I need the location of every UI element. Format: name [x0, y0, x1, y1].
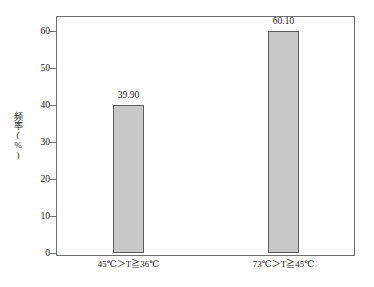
bar-chart: 频率(%) 0 10 20 30 40 50 60 39.90 60.10 45… [0, 0, 374, 287]
bar-value-1: 60.10 [258, 17, 309, 27]
x-axis-label-0: 45℃＞T≧36℃ [68, 260, 189, 269]
x-axis-label-1: 73℃＞T≧45℃ [223, 260, 344, 269]
y-tick-label-20: 20 [24, 175, 50, 185]
y-tick-label-0: 0 [24, 249, 50, 259]
y-axis-title: 频率(%) [8, 112, 22, 160]
y-tick-label-30: 30 [24, 138, 50, 148]
y-tick-label-40: 40 [24, 101, 50, 111]
bar-value-0: 39.90 [103, 91, 154, 101]
y-tick-label-10: 10 [24, 212, 50, 222]
plot-area [56, 16, 355, 256]
y-tick-label-60: 60 [24, 27, 50, 37]
bar-0 [113, 105, 144, 253]
y-tick-label-50: 50 [24, 64, 50, 74]
bar-1 [268, 31, 299, 253]
